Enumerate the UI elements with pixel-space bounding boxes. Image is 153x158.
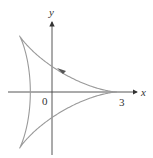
x-axis-label: x [140, 86, 146, 98]
origin-label: 0 [42, 95, 48, 107]
x-tick-3-label: 3 [119, 96, 125, 108]
y-axis-label: y [48, 6, 54, 18]
deltoid-graph: x y 0 3 [0, 0, 153, 158]
